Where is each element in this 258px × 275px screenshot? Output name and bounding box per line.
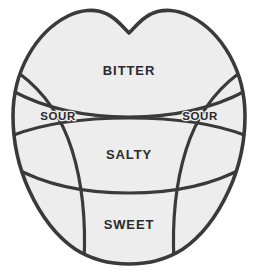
- region-label-sour-right: SOUR: [182, 110, 218, 122]
- region-label-sour-left: SOUR: [40, 110, 76, 122]
- region-label-salty: SALTY: [106, 147, 152, 162]
- region-label-bitter: BITTER: [103, 63, 155, 78]
- tongue-taste-map-diagram: BITTER SOUR SOUR SALTY SWEET: [0, 0, 258, 275]
- taste-map-illustration: BITTER SOUR SOUR SALTY SWEET: [0, 0, 258, 275]
- region-label-sweet: SWEET: [104, 217, 155, 232]
